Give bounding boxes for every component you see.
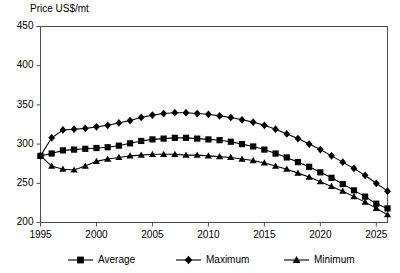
data-point-marker bbox=[306, 140, 313, 148]
data-point-marker bbox=[160, 110, 167, 118]
data-point-marker bbox=[48, 134, 55, 142]
legend-marker bbox=[77, 257, 84, 264]
data-point-marker bbox=[82, 146, 88, 152]
y-axis-ticks bbox=[37, 27, 41, 223]
data-point-marker bbox=[362, 172, 369, 180]
data-point-marker bbox=[250, 118, 257, 126]
data-point-marker bbox=[306, 164, 312, 170]
data-point-marker bbox=[384, 187, 391, 195]
chart-plot-area: 200250300350400450 199520002005201020152… bbox=[0, 0, 400, 273]
x-tick-label: 2020 bbox=[309, 229, 332, 240]
data-point-marker bbox=[216, 112, 223, 120]
x-tick-label: 2025 bbox=[365, 229, 388, 240]
data-point-marker bbox=[127, 140, 133, 146]
legend-item-minimum[interactable]: Minimum bbox=[284, 254, 355, 265]
data-point-marker bbox=[272, 150, 278, 156]
data-point-marker bbox=[82, 125, 89, 133]
data-point-marker bbox=[350, 193, 357, 199]
series-line bbox=[41, 154, 388, 214]
legend-marker bbox=[185, 256, 192, 265]
legend-label: Maximum bbox=[206, 254, 249, 265]
series-minimum bbox=[37, 151, 391, 218]
y-axis-tick-labels: 200250300350400450 bbox=[17, 20, 34, 227]
data-point-marker bbox=[295, 135, 302, 143]
x-tick-label: 2010 bbox=[197, 229, 220, 240]
x-tick-label: 2015 bbox=[253, 229, 276, 240]
data-point-marker bbox=[183, 109, 190, 117]
data-point-marker bbox=[284, 154, 290, 160]
data-point-marker bbox=[384, 211, 391, 217]
data-point-marker bbox=[105, 144, 111, 150]
data-point-marker bbox=[138, 138, 144, 144]
data-point-marker bbox=[339, 158, 346, 166]
data-point-marker bbox=[59, 126, 66, 134]
series-average bbox=[37, 135, 390, 212]
data-point-marker bbox=[351, 187, 357, 193]
data-point-marker bbox=[172, 135, 178, 141]
data-point-marker bbox=[171, 109, 178, 117]
data-point-marker bbox=[115, 119, 122, 127]
data-point-marker bbox=[272, 125, 279, 133]
data-point-marker bbox=[194, 136, 200, 142]
data-point-marker bbox=[384, 205, 390, 211]
x-axis-tick-labels: 1995200020052010201520202025 bbox=[29, 229, 387, 240]
data-point-marker bbox=[93, 145, 99, 151]
data-point-marker bbox=[194, 110, 201, 118]
x-axis-ticks bbox=[41, 223, 377, 227]
data-point-marker bbox=[317, 146, 324, 154]
plot-border bbox=[41, 27, 388, 223]
series-line bbox=[41, 138, 388, 209]
data-point-marker bbox=[250, 143, 256, 149]
data-series-layer bbox=[37, 109, 391, 217]
data-point-marker bbox=[328, 152, 335, 160]
data-point-marker bbox=[351, 165, 358, 173]
data-point-marker bbox=[239, 141, 245, 147]
data-point-marker bbox=[60, 147, 66, 153]
data-point-marker bbox=[116, 143, 122, 149]
x-tick-label: 1995 bbox=[29, 229, 52, 240]
data-point-marker bbox=[373, 179, 380, 187]
data-point-marker bbox=[228, 139, 234, 145]
y-tick-label: 200 bbox=[17, 216, 34, 227]
x-tick-label: 2005 bbox=[141, 229, 164, 240]
legend-label: Minimum bbox=[314, 254, 355, 265]
data-point-marker bbox=[340, 181, 346, 187]
chart-legend: AverageMaximumMinimum bbox=[68, 254, 355, 265]
data-point-marker bbox=[49, 150, 55, 156]
series-maximum bbox=[37, 109, 391, 195]
data-point-marker bbox=[161, 136, 167, 142]
data-point-marker bbox=[261, 146, 267, 152]
data-point-marker bbox=[149, 111, 156, 119]
price-range-chart: Price US$/mt 200250300350400450 19952000… bbox=[0, 0, 400, 273]
y-tick-label: 400 bbox=[17, 59, 34, 70]
data-point-marker bbox=[261, 121, 268, 129]
data-point-marker bbox=[71, 125, 78, 133]
data-point-marker bbox=[205, 136, 211, 142]
y-tick-label: 350 bbox=[17, 99, 34, 110]
data-point-marker bbox=[216, 137, 222, 143]
data-point-marker bbox=[317, 169, 323, 175]
legend-item-average[interactable]: Average bbox=[68, 254, 136, 265]
legend-label: Average bbox=[98, 254, 136, 265]
data-point-marker bbox=[239, 116, 246, 124]
y-tick-label: 300 bbox=[17, 138, 34, 149]
data-point-marker bbox=[138, 114, 145, 122]
data-point-marker bbox=[328, 175, 334, 181]
x-tick-label: 2000 bbox=[85, 229, 108, 240]
data-point-marker bbox=[127, 117, 134, 125]
data-point-marker bbox=[205, 110, 212, 118]
data-point-marker bbox=[283, 130, 290, 138]
data-point-marker bbox=[104, 121, 111, 129]
data-point-marker bbox=[183, 135, 189, 141]
y-tick-label: 250 bbox=[17, 177, 34, 188]
data-point-marker bbox=[295, 159, 301, 165]
data-point-marker bbox=[227, 114, 234, 122]
data-point-marker bbox=[149, 136, 155, 142]
y-tick-label: 450 bbox=[17, 20, 34, 31]
data-point-marker bbox=[93, 123, 100, 131]
legend-item-maximum[interactable]: Maximum bbox=[176, 254, 249, 265]
data-point-marker bbox=[71, 146, 77, 152]
